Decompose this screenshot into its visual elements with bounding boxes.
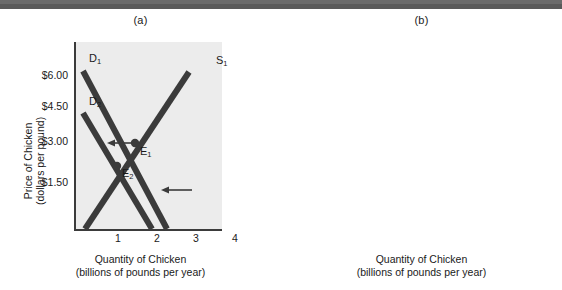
panel-b-x-axis-title-line2: (billions of pounds per year) (281, 266, 562, 279)
panel-a-x-axis-title-line1: Quantity of Chicken (0, 253, 281, 266)
panel-a-x-tick-2: 2 (149, 232, 165, 244)
panel-b-title: (b) (281, 14, 562, 26)
panel-a-y-tick-600: $6.00 (26, 69, 68, 81)
panel-a-x-tick-4: 4 (227, 232, 243, 244)
panel-a-y-tick-450: $4.50 (26, 100, 68, 112)
panel-a-x-axis-title: Quantity of Chicken (billions of pounds … (0, 253, 281, 279)
panel-a-label-e1: E1 (140, 145, 152, 157)
panel-a: (a) Price of Chicken (dollars per pound)… (0, 0, 281, 290)
panel-a-equilibrium-dot-e1 (131, 139, 139, 147)
panel-a-label-d1: D1 (89, 52, 101, 64)
panel-a-x-tick-1: 1 (110, 232, 126, 244)
panel-a-plot-area (74, 42, 222, 231)
panel-a-x-axis-title-line2: (billions of pounds per year) (0, 266, 281, 279)
panel-b: (b) Price of Chicken (dollars per pound)… (281, 0, 562, 290)
panel-a-curves-svg (76, 42, 222, 229)
panel-a-y-axis-title-line1: Price of Chicken (22, 117, 34, 205)
panel-a-y-tick-300: $3.00 (26, 135, 68, 147)
panel-a-y-tick-150: $1.50 (26, 176, 68, 188)
panel-a-title: (a) (0, 14, 281, 26)
panel-a-label-s1: S1 (216, 54, 228, 66)
panel-b-x-axis-title: Quantity of Chicken (billions of pounds … (281, 253, 562, 279)
panel-a-label-d2: D2 (89, 95, 101, 107)
panel-a-y-axis-title: Price of Chicken (dollars per pound) (22, 117, 46, 205)
panel-a-label-e2: E2 (122, 167, 134, 179)
panel-a-equilibrium-dot-e2 (113, 162, 121, 170)
panel-b-x-axis-title-line1: Quantity of Chicken (281, 253, 562, 266)
panel-a-arrow-demand-lower (161, 187, 192, 194)
panel-a-x-tick-3: 3 (188, 232, 204, 244)
panel-a-y-axis-title-line2: (dollars per pound) (34, 117, 46, 205)
